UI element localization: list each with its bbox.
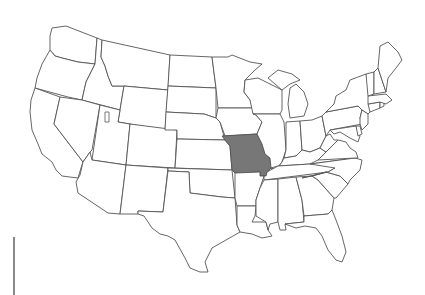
lakes-layer bbox=[105, 112, 109, 122]
state-kansas[interactable] bbox=[175, 139, 232, 170]
state-new-jersey[interactable] bbox=[360, 110, 368, 130]
state-new-mexico[interactable] bbox=[120, 165, 168, 214]
scale-bar bbox=[13, 237, 15, 295]
lake-great-salt-lake bbox=[105, 112, 109, 122]
state-north-dakota[interactable] bbox=[168, 55, 216, 88]
state-colorado[interactable] bbox=[126, 124, 177, 168]
states-layer bbox=[30, 26, 402, 272]
us-map bbox=[0, 0, 425, 295]
state-montana[interactable] bbox=[101, 40, 170, 90]
